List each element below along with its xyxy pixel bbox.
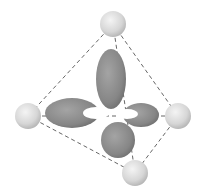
lobe-bottom: [101, 122, 135, 158]
node-left: [83, 107, 109, 119]
sphere-top: [100, 11, 126, 37]
sphere-right: [165, 103, 191, 129]
tetrahedral-orbital-diagram: [0, 0, 200, 191]
sphere-bottom: [122, 160, 148, 186]
node-right: [116, 109, 138, 119]
diagram-canvas: [0, 0, 200, 191]
sphere-left: [15, 103, 41, 129]
lobe-top: [96, 49, 126, 109]
